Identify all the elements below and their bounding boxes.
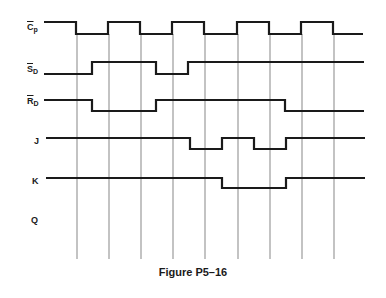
waveform-rd: [44, 100, 364, 111]
label-rd: RD: [27, 96, 39, 107]
label-cp: Cp: [27, 22, 38, 33]
waveform-cp: [44, 22, 363, 34]
label-k: K: [32, 176, 39, 186]
label-j: J: [34, 136, 39, 146]
figure-caption: Figure P5–16: [0, 266, 386, 278]
timing-diagram: [0, 0, 386, 298]
label-q: Q: [31, 215, 38, 225]
waveform-sd: [44, 62, 364, 74]
label-sd: SD: [27, 64, 38, 75]
clock-edge-gridlines: [77, 34, 334, 259]
waveform-k: [46, 178, 365, 188]
waveforms: [44, 22, 365, 188]
waveform-j: [46, 138, 365, 149]
